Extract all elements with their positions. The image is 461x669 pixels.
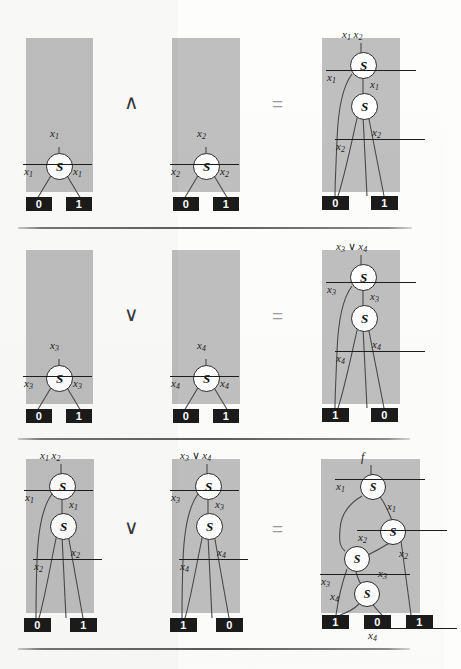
terminal-0[interactable]: 0 (26, 197, 52, 211)
terminal-1[interactable]: 1 (66, 409, 92, 423)
terminal-1-right[interactable]: 1 (406, 615, 433, 629)
edge-lines (0, 443, 110, 643)
equation-row-or: S x3 x3 x3 0 1 ∨ S x4 (0, 222, 444, 438)
terminal-0[interactable]: 0 (26, 409, 52, 423)
decision-node-x4[interactable]: S (351, 305, 378, 332)
edge-label-x1: x1 (69, 499, 78, 512)
equation-row-combine: S S x1 x2 x1 x1 x2 x2 0 1 ∨ (0, 443, 444, 669)
root-label: x3 (50, 340, 59, 353)
edge-label-high: x4 (220, 378, 229, 391)
terminal-0[interactable]: 0 (24, 618, 51, 632)
edge-label-x1: x1 (387, 501, 396, 514)
edge-label-not-x1: x1 (25, 492, 135, 505)
edge-label-not-x4: x4 (368, 630, 461, 643)
edge-label-x2: x2 (372, 127, 381, 140)
bdd-panel-and-left: S x1 x1 x1 0 1 (0, 0, 110, 215)
decision-node-x4[interactable]: S (196, 513, 223, 540)
bdd-panel-and-right: S x2 x2 x2 0 1 (148, 0, 258, 215)
edge-label-high: x3 (73, 378, 82, 391)
edge-label-x4: x4 (372, 339, 381, 352)
root-label: x3 ∨ x4 (336, 241, 367, 254)
bdd-panel-or-left: S x3 x3 x3 0 1 (0, 222, 110, 432)
edge-label-high: x1 (73, 166, 82, 179)
root-label: x1 (50, 128, 59, 141)
section-divider-bottom (18, 648, 410, 650)
terminal-1[interactable]: 1 (213, 409, 239, 423)
equals-sign: = (272, 305, 283, 327)
edge-label-not-x3: x3 (171, 492, 281, 505)
edge-label-not-x2: x2 (34, 561, 144, 574)
edge-label-x3: x3 (215, 499, 224, 512)
root-label: x1 x2 (40, 450, 60, 463)
node-symbol: S (361, 99, 368, 114)
edge-label-not-x4: x4 (336, 353, 461, 366)
edge-label-not-x1: x1 (336, 481, 461, 494)
edge-label-not-x4: x4 (180, 561, 290, 574)
edge-lines (0, 0, 110, 215)
section-divider (18, 438, 410, 440)
terminal-1-left[interactable]: 1 (170, 618, 197, 632)
edge-label-x3: x3 (378, 568, 387, 581)
node-symbol: S (60, 519, 67, 534)
terminal-1[interactable]: 1 (70, 618, 97, 632)
node-symbol: S (354, 552, 361, 566)
edge-label-not-x2: x2 (358, 532, 461, 545)
terminal-1[interactable]: 1 (66, 197, 92, 211)
bdd-panel-combine-left: S S x1 x2 x1 x1 x2 x2 0 1 (0, 443, 110, 643)
root-label: x2 (197, 128, 206, 141)
edge-label-x1: x1 (370, 79, 379, 92)
edge-label-x3: x3 (370, 291, 379, 304)
operator-or: ∨ (124, 302, 139, 326)
equals-sign: = (272, 518, 283, 540)
bdd-panel-combine-result: S S S S f x1 x1 x2 x2 x3 x3 (300, 443, 444, 643)
terminal-1[interactable]: 1 (371, 196, 398, 210)
edge-label-not-x1: x1 (327, 72, 461, 85)
bdd-panel-and-result: S S x1 x2 x1 x1 x2 x2 0 1 (300, 0, 444, 215)
edge-label-not-x3: x3 (327, 284, 461, 297)
terminal-0-right[interactable]: 0 (216, 618, 243, 632)
bdd-panel-or-result: S S x3 ∨ x4 x3 x3 x4 x4 1 0 (300, 222, 444, 432)
operator-or: ∨ (124, 515, 139, 539)
edge-label-x2: x2 (71, 547, 80, 560)
decision-node-x3[interactable]: S (344, 546, 370, 572)
edge-label-not-x2: x2 (336, 141, 461, 154)
equals-sign: = (272, 93, 283, 115)
root-label: x3 ∨ x4 (180, 450, 211, 463)
terminal-0[interactable]: 0 (322, 196, 349, 210)
bdd-panel-combine-right: S S x3 ∨ x4 x3 x3 x4 x4 1 0 (148, 443, 258, 643)
terminal-1-left[interactable]: 1 (322, 615, 349, 629)
decision-node-x2[interactable]: S (351, 93, 378, 120)
edge-label-high: x2 (220, 166, 229, 179)
decision-node-x2[interactable]: S (50, 513, 77, 540)
edge-label-x2: x2 (399, 548, 408, 561)
operator-and: ∧ (124, 90, 139, 114)
root-label-f: f (361, 451, 364, 463)
root-label: x4 (197, 340, 206, 353)
edge-label-not-x3: x3 (321, 576, 461, 589)
edge-lines (148, 0, 258, 215)
terminal-1[interactable]: 1 (213, 197, 239, 211)
terminal-0-right[interactable]: 0 (371, 408, 398, 422)
edge-label-x4: x4 (217, 547, 226, 560)
edge-label-x4: x4 (330, 591, 339, 604)
bdd-panel-or-right: S x4 x4 x4 0 1 (148, 222, 258, 432)
node-symbol: S (361, 311, 368, 326)
equation-row-and: S x1 x1 x1 0 1 ∧ S x2 (0, 0, 444, 227)
terminal-0[interactable]: 0 (173, 197, 199, 211)
terminal-0[interactable]: 0 (173, 409, 199, 423)
edge-lines (0, 222, 110, 432)
root-label: x1 x2 (342, 29, 362, 42)
terminal-0-middle[interactable]: 0 (364, 615, 391, 629)
edge-lines (148, 222, 258, 432)
terminal-1-left[interactable]: 1 (322, 408, 349, 422)
node-symbol: S (206, 519, 213, 534)
